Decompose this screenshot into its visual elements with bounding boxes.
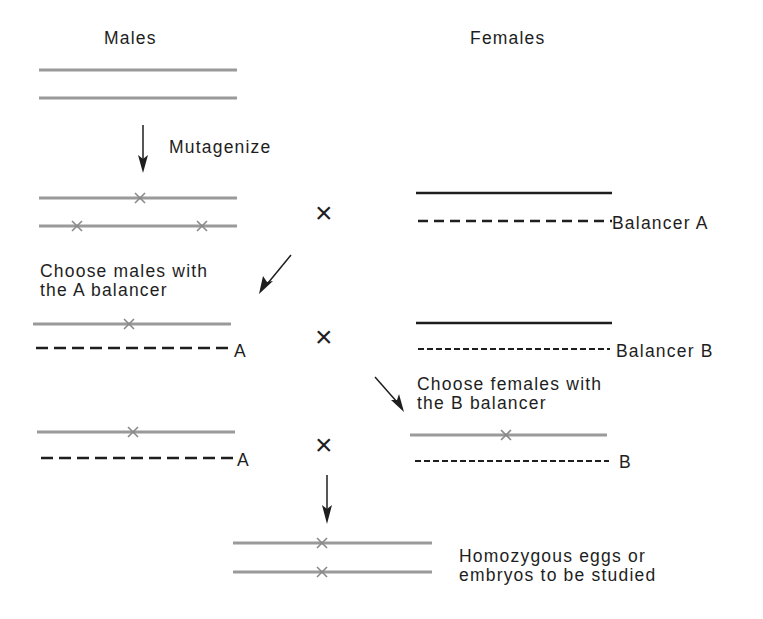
arrow-down-right-icon <box>375 377 404 412</box>
female-chromosomes-balancer-b <box>416 323 612 349</box>
male-chromosomes-second-cross <box>37 427 235 458</box>
male-chromosomes-with-balancer-a <box>33 319 231 348</box>
male-chromosomes-mutagenized <box>39 193 237 231</box>
crossing-scheme-diagram <box>0 0 763 619</box>
arrow-down-icon <box>138 125 148 173</box>
male-chromosomes-initial <box>39 70 237 98</box>
arrow-down-left-icon <box>259 255 291 294</box>
female-chromosomes-balancer-a <box>416 193 612 221</box>
female-chromosomes-with-balancer-b <box>410 430 609 461</box>
homozygous-chromosomes <box>233 538 432 577</box>
arrow-down-icon <box>322 475 332 524</box>
